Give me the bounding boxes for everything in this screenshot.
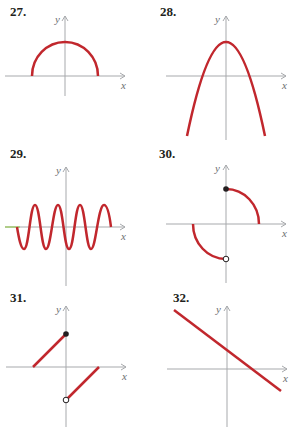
graph-31-plot: y x [0, 287, 149, 430]
y-axis-label: y [215, 303, 221, 315]
x-axis-label: x [120, 230, 126, 242]
graph-27: 27. y x [0, 0, 149, 143]
graph-32: 32. y x [149, 287, 298, 430]
y-axis-label: y [54, 13, 60, 25]
graph-30: 30. y x [149, 143, 298, 286]
open-dot-icon [63, 397, 69, 403]
closed-dot-icon [63, 331, 69, 337]
graph-28-plot: y x [149, 0, 298, 143]
graph-30-plot: y x [149, 143, 298, 286]
graph-29-plot: y x [0, 143, 149, 286]
x-axis-label: x [281, 227, 287, 239]
x-axis-label: x [281, 79, 287, 91]
x-axis-label: x [121, 370, 127, 382]
graph-29: 29. y x [0, 143, 149, 286]
arc-lower [193, 224, 226, 259]
open-dot-icon [223, 256, 229, 262]
graph-28: 28. y x [149, 0, 298, 143]
y-axis-label: y [55, 303, 61, 315]
x-axis-label: x [282, 372, 288, 384]
arc-upper [226, 189, 259, 224]
graph-32-plot: y x [149, 287, 298, 430]
segment-upper [33, 334, 66, 367]
graph-31: 31. y x [0, 287, 149, 430]
closed-dot-icon [223, 186, 229, 192]
graph-27-plot: y x [0, 0, 149, 143]
y-axis-label: y [214, 162, 220, 174]
y-axis-label: y [214, 13, 220, 25]
segment-lower [66, 367, 99, 400]
x-axis-label: x [120, 79, 126, 91]
y-axis-label: y [55, 164, 61, 176]
